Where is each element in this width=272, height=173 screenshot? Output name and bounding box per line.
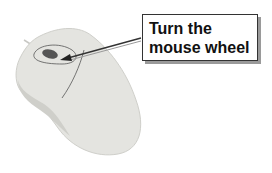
mouse-body	[16, 29, 141, 155]
callout-line-1: Turn the	[149, 19, 257, 38]
callout-line-2: mouse wheel	[149, 38, 257, 57]
callout-box: Turn the mouse wheel	[142, 14, 258, 61]
